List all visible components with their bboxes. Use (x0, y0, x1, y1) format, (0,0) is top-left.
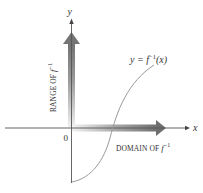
y-axis-label: y (67, 6, 73, 17)
inverse-function-diagram: y x 0 y = f−1(x) RANGE OF f−1 DOMAIN OF … (0, 0, 203, 193)
origin-label: 0 (64, 133, 69, 143)
range-label: RANGE OF f−1 (47, 63, 58, 112)
curve-label: y = f−1(x) (129, 53, 168, 66)
inverse-function-curve (72, 65, 154, 182)
domain-label: DOMAIN OF f−1 (116, 142, 170, 153)
x-axis-label: x (192, 122, 198, 133)
